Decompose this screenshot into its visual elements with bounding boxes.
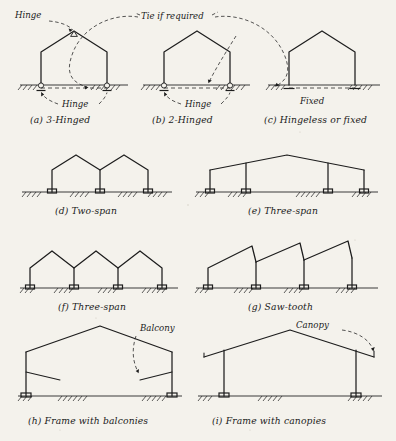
caption-g: (g) Saw-tooth bbox=[248, 301, 313, 312]
base-hinge-left-b bbox=[160, 83, 169, 91]
tie-annotation-group: Tie if required bbox=[69, 11, 287, 90]
leader-tie-left bbox=[69, 16, 138, 87]
leader-hinge-bottom-right bbox=[99, 93, 107, 105]
caption-e: (e) Three-span bbox=[248, 205, 318, 216]
diagram-h-frame-with-balconies: Balcony (h) Frame with balconies bbox=[18, 323, 182, 426]
diagram-a-3-hinged: Hinge Hinge (a) 3-Hinged bbox=[14, 10, 128, 125]
ground-hatching-h bbox=[18, 396, 166, 401]
base-hinge-left-a bbox=[37, 83, 46, 91]
balcony-right bbox=[140, 372, 172, 380]
label-canopy: Canopy bbox=[296, 320, 329, 330]
caption-c: (c) Hingeless or fixed bbox=[264, 114, 367, 125]
leader-hinge-bottom-right-b bbox=[221, 93, 230, 105]
leader-canopy bbox=[342, 330, 373, 350]
diagram-i-frame-with-canopies: Canopy (i) Frame with canopies bbox=[198, 320, 382, 426]
diagram-f-three-span: (f) Three-span bbox=[20, 251, 178, 312]
label-hinge-bottom-a: Hinge bbox=[61, 99, 88, 109]
leader-hinge-bottom-left bbox=[42, 93, 59, 105]
label-hinge-bottom-b: Hinge bbox=[184, 99, 211, 109]
balcony-left bbox=[26, 372, 60, 380]
label-balcony: Balcony bbox=[139, 323, 175, 333]
leader-hinge-top bbox=[49, 21, 73, 30]
diagram-e-three-span: (e) Three-span bbox=[195, 155, 378, 216]
caption-f: (f) Three-span bbox=[58, 301, 126, 312]
caption-d: (d) Two-span bbox=[55, 205, 117, 216]
leader-hinge-bottom-left-b bbox=[165, 93, 182, 105]
leader-tie-b bbox=[209, 36, 236, 82]
caption-a: (a) 3-Hinged bbox=[30, 114, 90, 125]
diagram-c-hingeless-fixed: Fixed (c) Hingeless or fixed bbox=[264, 31, 380, 125]
ground-hatching-g bbox=[195, 288, 355, 293]
ground-hatching-e bbox=[195, 192, 371, 197]
figure-sheet: Hinge Hinge (a) 3-Hinged Hinge (b) 2-Hin… bbox=[0, 0, 396, 441]
caption-b: (b) 2-Hinged bbox=[152, 114, 213, 125]
label-tie-if-required: Tie if required bbox=[141, 11, 204, 21]
ground-hatching-f bbox=[20, 288, 166, 293]
diagram-d-two-span: (d) Two-span bbox=[22, 155, 172, 216]
label-hinge-top: Hinge bbox=[14, 10, 41, 20]
diagram-g-saw-tooth: (g) Saw-tooth bbox=[195, 241, 378, 312]
caption-i: (i) Frame with canopies bbox=[212, 415, 326, 426]
ground-hatching-c bbox=[266, 85, 372, 90]
leader-balcony bbox=[133, 336, 138, 372]
leader-tie-right bbox=[215, 16, 288, 86]
label-fixed: Fixed bbox=[299, 96, 325, 106]
diagram-b-2-hinged: Hinge (b) 2-Hinged bbox=[141, 31, 250, 125]
caption-h: (h) Frame with balconies bbox=[28, 415, 148, 426]
